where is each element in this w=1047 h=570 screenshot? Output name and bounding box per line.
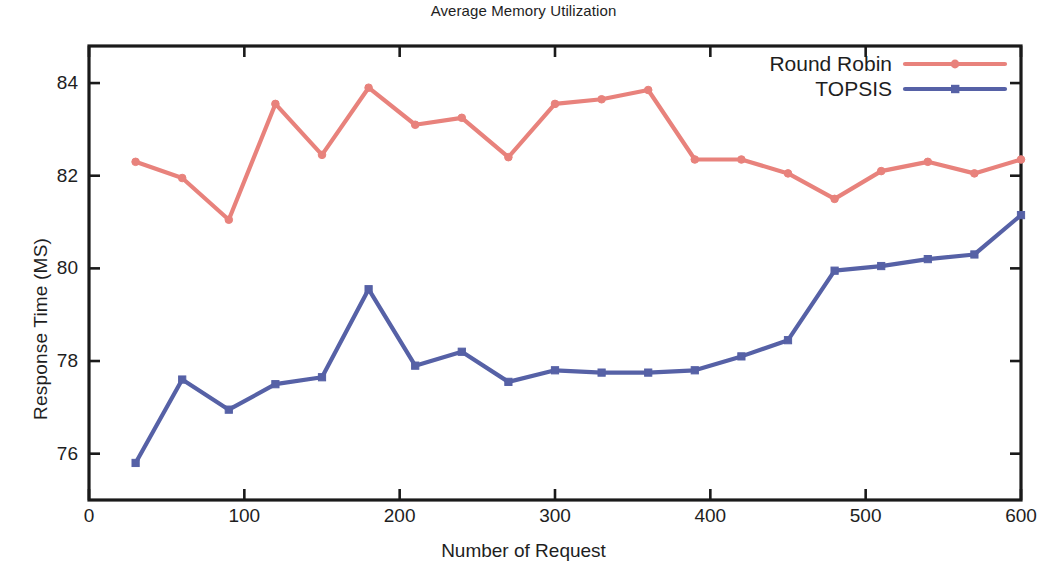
series-line-0 bbox=[136, 88, 1021, 220]
x-tick-label: 200 bbox=[384, 505, 416, 527]
x-tick-label: 100 bbox=[228, 505, 260, 527]
series-marker-1 bbox=[225, 406, 232, 413]
x-tick-label: 500 bbox=[850, 505, 882, 527]
series-marker-1 bbox=[691, 367, 698, 374]
series-marker-0 bbox=[365, 84, 373, 92]
series-marker-0 bbox=[411, 121, 419, 129]
series-marker-1 bbox=[831, 267, 838, 274]
series-marker-1 bbox=[318, 374, 325, 381]
series-marker-0 bbox=[831, 195, 839, 203]
chart-figure: Average Memory Utilization Response Time… bbox=[0, 0, 1047, 570]
series-marker-1 bbox=[784, 337, 791, 344]
series-marker-1 bbox=[971, 251, 978, 258]
legend-marker-0 bbox=[951, 60, 960, 69]
series-marker-0 bbox=[132, 158, 140, 166]
plot-area: Round RobinTOPSIS bbox=[0, 0, 1047, 570]
series-marker-1 bbox=[272, 381, 279, 388]
series-marker-0 bbox=[178, 174, 186, 182]
x-tick-label: 0 bbox=[84, 505, 95, 527]
series-marker-0 bbox=[644, 86, 652, 94]
series-marker-1 bbox=[738, 353, 745, 360]
legend-label-1: TOPSIS bbox=[815, 77, 892, 100]
series-marker-0 bbox=[691, 156, 699, 164]
legend-label-0: Round Robin bbox=[769, 52, 892, 75]
series-marker-1 bbox=[598, 369, 605, 376]
series-marker-0 bbox=[505, 153, 513, 161]
x-tick-label: 600 bbox=[1005, 505, 1037, 527]
series-marker-0 bbox=[924, 158, 932, 166]
series-marker-0 bbox=[1017, 156, 1025, 164]
series-marker-1 bbox=[551, 367, 558, 374]
series-marker-0 bbox=[318, 151, 326, 159]
series-marker-1 bbox=[412, 362, 419, 369]
series-marker-0 bbox=[458, 114, 466, 122]
x-tick-label: 300 bbox=[539, 505, 571, 527]
x-axis-title: Number of Request bbox=[0, 540, 1047, 562]
series-marker-0 bbox=[551, 100, 559, 108]
series-line-1 bbox=[136, 215, 1021, 463]
series-marker-0 bbox=[784, 170, 792, 178]
series-marker-0 bbox=[272, 100, 280, 108]
series-marker-1 bbox=[878, 262, 885, 269]
x-tick-label: 400 bbox=[694, 505, 726, 527]
series-marker-0 bbox=[225, 216, 233, 224]
series-marker-1 bbox=[1017, 211, 1024, 218]
series-marker-0 bbox=[598, 95, 606, 103]
series-marker-1 bbox=[179, 376, 186, 383]
series-marker-1 bbox=[505, 378, 512, 385]
series-marker-1 bbox=[132, 459, 139, 466]
series-marker-0 bbox=[971, 170, 979, 178]
series-marker-1 bbox=[458, 348, 465, 355]
series-marker-0 bbox=[738, 156, 746, 164]
series-marker-1 bbox=[645, 369, 652, 376]
legend-marker-1 bbox=[951, 85, 959, 93]
x-axis-tick-labels: 0100200300400500600 bbox=[0, 505, 1047, 535]
plot-frame bbox=[89, 46, 1021, 500]
series-marker-1 bbox=[924, 256, 931, 263]
series-marker-1 bbox=[365, 286, 372, 293]
series-marker-0 bbox=[877, 167, 885, 175]
